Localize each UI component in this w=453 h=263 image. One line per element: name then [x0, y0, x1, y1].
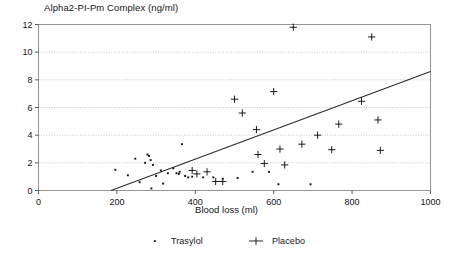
regression-line: [111, 72, 430, 191]
legend-label-placebo: Placebo: [272, 236, 305, 246]
legend-label-trasylol: Trasylol: [171, 236, 203, 246]
plot-canvas: 02468101202004006008001000: [0, 0, 453, 263]
chart-legend: Trasylol Placebo: [0, 236, 453, 246]
svg-text:6: 6: [27, 103, 32, 113]
plus-marker-icon: [249, 236, 263, 246]
series-placebo-points: [189, 24, 384, 185]
legend-entry-placebo: Placebo: [249, 236, 305, 246]
legend-entry-trasylol: Trasylol: [148, 236, 203, 246]
svg-text:2: 2: [27, 158, 32, 168]
svg-text:12: 12: [22, 20, 32, 30]
scatter-plot-figure: Alpha2-PI-Pm Complex (ng/ml) 02468101202…: [0, 0, 453, 263]
axis-tick-labels: 02468101202004006008001000: [22, 20, 440, 207]
x-axis-label: Blood loss (ml): [0, 204, 453, 215]
series-trasylol-points: [114, 143, 311, 189]
svg-text:0: 0: [27, 186, 32, 196]
svg-text:10: 10: [22, 47, 32, 57]
svg-text:8: 8: [27, 75, 32, 85]
axis-ticks: [35, 25, 431, 195]
gridlines: [39, 52, 431, 163]
svg-text:4: 4: [27, 130, 32, 140]
dot-marker-icon: [148, 236, 162, 246]
